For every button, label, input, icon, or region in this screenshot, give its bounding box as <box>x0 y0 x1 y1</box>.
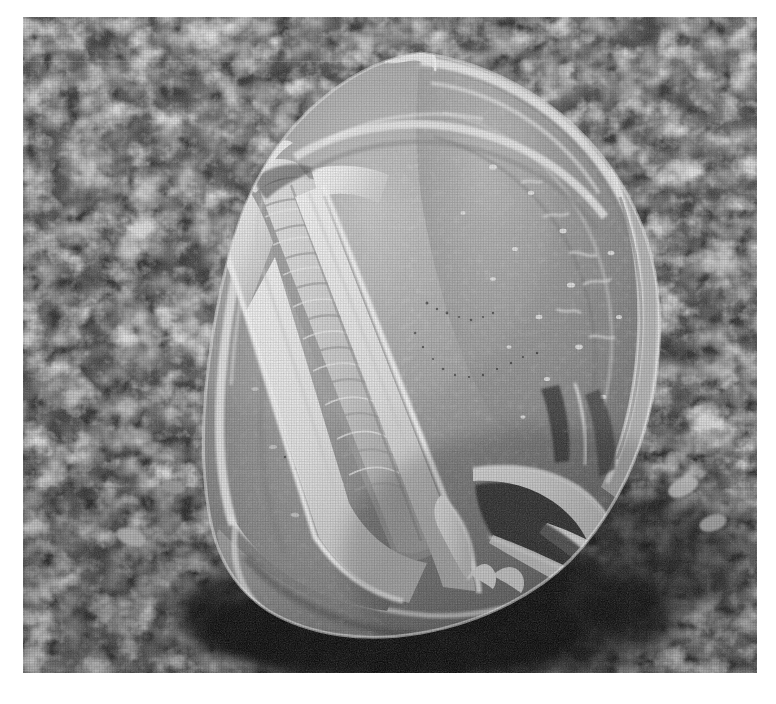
micrograph-canvas <box>23 17 757 673</box>
micrograph-page: Black and white scanning electron microg… <box>0 0 776 704</box>
micrograph-plate <box>23 17 757 673</box>
